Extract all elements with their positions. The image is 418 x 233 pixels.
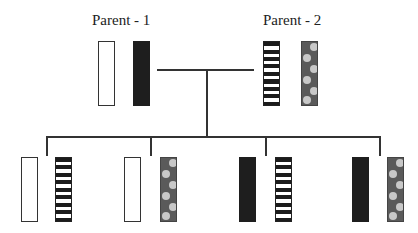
dot [162,170,170,178]
offspring-1-drop-line [46,136,48,156]
offspring-3-drop-line [265,136,267,156]
dot [169,203,177,211]
offspring-2-drop-line [150,136,152,156]
offspring-1-chromosome-white [21,157,38,222]
dot [303,76,311,84]
dot [389,212,397,220]
dot [169,159,177,167]
offspring-4-drop-line [379,136,381,156]
dot [310,87,318,95]
offspring-4-chromosome-black [352,157,369,222]
offspring-4-chromosome-dotted [387,157,404,222]
dot [310,43,318,51]
dot [303,96,311,104]
dot [396,203,404,211]
parent-2-label: Parent - 2 [263,13,321,28]
dot [389,192,397,200]
parent-1-label: Parent - 1 [92,13,150,28]
dot [310,65,318,73]
dot [303,54,311,62]
offspring-3-chromosome-black [239,157,256,222]
parent-2-chromosome-dotted [301,41,318,106]
descent-line [206,69,208,136]
offspring-1-chromosome-striped [55,157,72,222]
dot [162,212,170,220]
offspring-bus-line [46,136,380,138]
dot [169,181,177,189]
dot [396,159,404,167]
offspring-2-chromosome-dotted [160,157,177,222]
offspring-2-chromosome-white [124,157,141,222]
dot [389,170,397,178]
parent-2-chromosome-striped [263,41,280,106]
dot [396,181,404,189]
parent-1-chromosome-black [133,41,150,106]
parent-1-chromosome-white [98,41,115,106]
dot [162,192,170,200]
offspring-3-chromosome-striped [275,157,292,222]
